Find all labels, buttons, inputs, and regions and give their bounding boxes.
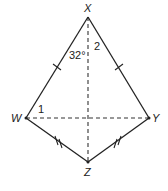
vertex-z-point xyxy=(87,161,90,164)
vertex-label-y: Y xyxy=(152,112,160,124)
vertex-w-point xyxy=(25,117,28,120)
side-wz xyxy=(26,118,88,162)
angle-label-32: 32° xyxy=(69,49,86,61)
angle-label-2: 2 xyxy=(94,40,100,52)
vertex-label-w: W xyxy=(11,112,23,124)
vertex-y-point xyxy=(148,117,151,120)
vertex-label-z: Z xyxy=(83,166,92,178)
side-yz xyxy=(88,118,149,162)
tick-mark-xw xyxy=(53,64,61,70)
vertex-label-x: X xyxy=(83,2,92,14)
kite-diagram: X W Y Z 32° 2 1 xyxy=(0,0,168,191)
angle-label-1: 1 xyxy=(38,103,44,115)
